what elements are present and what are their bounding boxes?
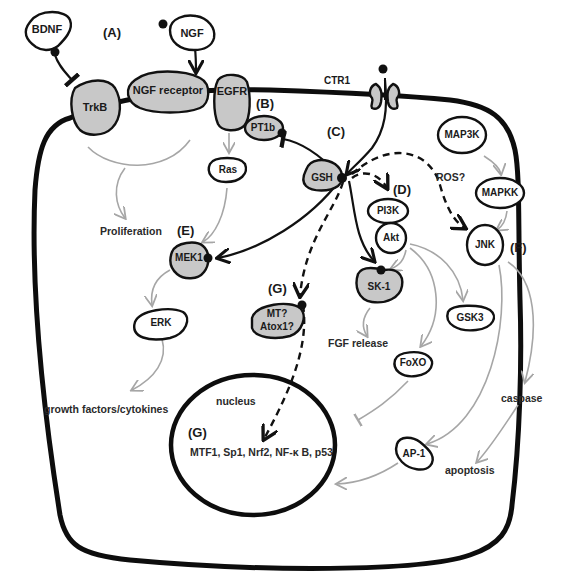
node-ctr1-channel: [370, 65, 399, 109]
section-label-b: (B): [256, 96, 274, 111]
label-nucleus: nucleus: [216, 395, 256, 407]
node-label-map3k: MAP3K: [444, 129, 480, 140]
node-label-pt1b: PT1b: [251, 122, 275, 133]
edge-ap1-nucleus: [337, 463, 398, 484]
node-ras: Ras: [209, 158, 246, 182]
node-label-trkb: TrkB: [83, 101, 108, 113]
edge-arc-to-proliferation: [116, 168, 125, 218]
node-gsh: GSH: [303, 160, 347, 190]
node-erk: ERK: [134, 309, 187, 339]
node-label-gsh: GSH: [311, 172, 333, 183]
label-caspase: caspase: [501, 392, 543, 404]
node-ngf-receptor: NGF receptor: [128, 72, 208, 113]
edge-jnk-ap1: [427, 265, 502, 444]
node-label-foxo: FoXO: [400, 357, 427, 368]
node-egfr: EGFR: [214, 75, 249, 130]
section-label-d: (D): [393, 182, 411, 197]
label-apoptosis: apoptosis: [445, 464, 495, 476]
node-label-sk1: SK-1: [368, 281, 391, 292]
node-label-mapkk: MAPKK: [482, 187, 519, 198]
edge-ngf-receptor: [195, 48, 196, 72]
node-pi3k: PI3K: [368, 199, 408, 223]
section-label-g-cytoplasm: (G): [268, 281, 287, 296]
edge-ras-mek1: [203, 188, 227, 242]
label-ros: ROS?: [436, 171, 465, 183]
edge-erk-growth: [132, 339, 163, 390]
edge-gsh-mek1: [218, 180, 340, 258]
edge-caspase-apoptosis: [477, 405, 518, 462]
node-pt1b: PT1b: [245, 116, 287, 140]
edge-mapkk-jnk: [497, 211, 507, 230]
section-label-e: (E): [177, 223, 194, 238]
section-label-c: (C): [327, 124, 345, 139]
edge-map3k-mapkk: [484, 156, 501, 174]
node-label-erk: ERK: [150, 317, 172, 328]
label-ctr1: CTR1: [324, 75, 351, 86]
node-trkb: TrkB: [71, 81, 120, 135]
node-label-ngf: NGF: [180, 27, 204, 39]
node-label-jnk: JNK: [475, 239, 496, 250]
edge-gsh-mt: [300, 182, 343, 296]
node-label-mt: MT?: [267, 308, 288, 319]
node-jnk: JNK: [467, 225, 503, 265]
node-ap1: AP-1: [396, 438, 433, 470]
node-mapkk: MAPKK: [476, 178, 524, 208]
edge-bdnf-trkb: [55, 55, 72, 80]
node-gsk3: GSK3: [447, 306, 494, 331]
node-mek1: MEK1: [170, 243, 212, 279]
node-label-mek1: MEK1: [175, 252, 203, 263]
node-label-ap1: AP-1: [403, 448, 426, 459]
pathway-diagram: BDNF NGF TrkB NGF receptor EGFR PT1b Ras: [0, 0, 570, 581]
node-label-ras: Ras: [219, 164, 238, 175]
node-label-gsk3: GSK3: [456, 312, 484, 323]
node-label-egfr: EGFR: [217, 85, 248, 97]
node-mt-atox1: MT? Atox1?: [252, 301, 307, 338]
label-fgf-release: FGF release: [328, 337, 388, 349]
label-transcription-factors: MTF1, Sp1, Nrf2, NF-κ B, p53: [190, 446, 333, 458]
edge-mek1-erk: [152, 270, 170, 305]
node-map3k: MAP3K: [438, 117, 486, 153]
node-label-pi3k: PI3K: [377, 205, 400, 216]
edge-receptors-proliferation: [88, 140, 190, 165]
node-sk1: SK-1: [357, 266, 403, 303]
node-label-atox1: Atox1?: [260, 321, 294, 332]
edge-foxo-nucleus: [358, 381, 408, 420]
node-akt: Akt: [376, 223, 406, 253]
section-label-a: (A): [103, 25, 121, 40]
node-bdnf: BDNF: [26, 12, 71, 57]
node-foxo: FoXO: [394, 352, 432, 376]
edge-gsh-pi3k: [352, 173, 387, 188]
edge-gsh-sk1: [349, 181, 374, 261]
node-label-ngf-receptor: NGF receptor: [133, 84, 204, 96]
section-label-g-nucleus: (G): [188, 425, 207, 440]
edge-sk1-fgf: [364, 308, 370, 336]
label-growth-factors: growth factors/cytokines: [44, 403, 168, 415]
edge-akt-foxo: [410, 248, 436, 346]
edge-akt-gsk3: [410, 244, 463, 300]
node-ngf: NGF: [159, 16, 215, 50]
node-label-akt: Akt: [383, 232, 400, 243]
section-label-f: (F): [510, 240, 527, 255]
node-label-bdnf: BDNF: [32, 23, 63, 35]
label-proliferation: Proliferation: [100, 225, 162, 237]
